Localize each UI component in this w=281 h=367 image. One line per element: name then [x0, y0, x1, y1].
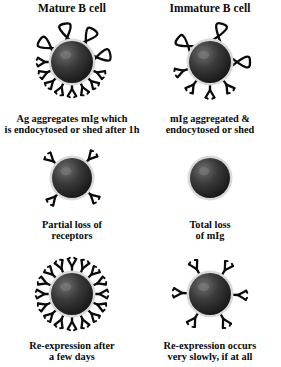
column-heading-immature: Immature B cell: [140, 1, 280, 15]
caption-line: Re-expression after: [2, 340, 142, 351]
mature-partial-loss-illustration: [17, 140, 127, 216]
immature-reexpression-illustration: [148, 246, 272, 342]
immature-total-loss-illustration: [155, 140, 265, 216]
caption-line: Total loss: [140, 219, 280, 230]
caption-mature-reexpression: Re-expression after a few days: [2, 340, 142, 363]
cell-mature-partial-loss: [2, 140, 142, 216]
caption-mature-crosslinked: Ag aggregates mIg which is endocytosed o…: [2, 113, 142, 136]
cell-immature-crosslinked: [140, 14, 280, 110]
mature-crosslinked-illustration: [10, 14, 134, 110]
b-cell-receptor-modulation-diagram: Mature B cell Immature B cell Ag aggrega…: [0, 0, 281, 367]
caption-line: endocytosed or shed: [140, 124, 280, 135]
mature-reexpression-illustration: [10, 246, 134, 342]
column-heading-mature: Mature B cell: [2, 1, 142, 15]
caption-line: mIg aggregated &: [140, 113, 280, 124]
cell-immature-total-loss: [140, 140, 280, 216]
immature-crosslinked-illustration: [148, 14, 272, 110]
cell-mature-reexpression: [2, 246, 142, 342]
caption-line: very slowly, if at all: [140, 351, 280, 362]
caption-line: of mIg: [140, 230, 280, 241]
caption-immature-reexpression: Re-expression occurs very slowly, if at …: [140, 340, 280, 363]
caption-line: is endocytosed or shed after 1h: [2, 124, 142, 135]
caption-line: a few days: [2, 351, 142, 362]
caption-line: Ag aggregates mIg which: [2, 113, 142, 124]
caption-immature-crosslinked: mIg aggregated & endocytosed or shed: [140, 113, 280, 136]
caption-line: receptors: [2, 230, 142, 241]
caption-line: Re-expression occurs: [140, 340, 280, 351]
cell-mature-crosslinked: [2, 14, 142, 110]
caption-mature-partial-loss: Partial loss of receptors: [2, 219, 142, 242]
caption-immature-total-loss: Total loss of mIg: [140, 219, 280, 242]
caption-line: Partial loss of: [2, 219, 142, 230]
cell-immature-reexpression: [140, 246, 280, 342]
